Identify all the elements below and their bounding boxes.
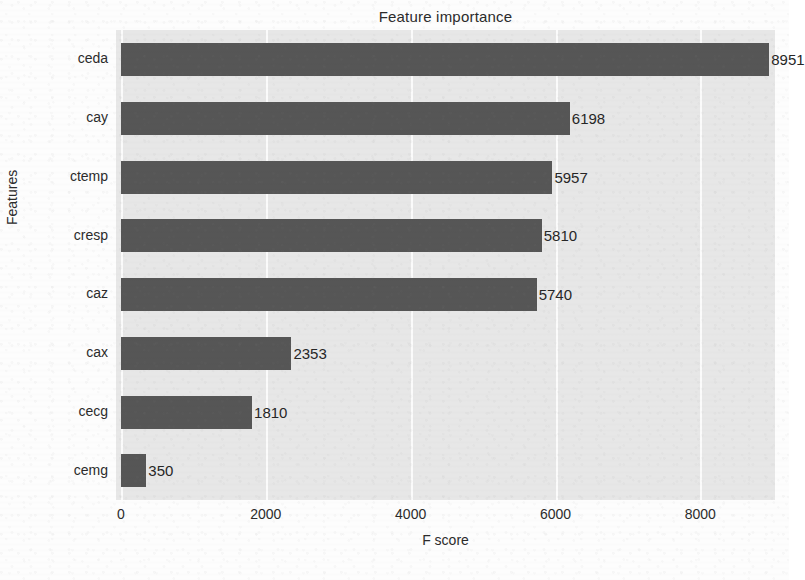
bar-track: 5957 — [116, 148, 775, 207]
y-axis-label: Features — [4, 170, 20, 225]
bar-value-label: 8951 — [769, 43, 804, 76]
x-tick-4000: 4000 — [395, 506, 426, 522]
bar-value-label: 350 — [146, 454, 173, 487]
bar-value-label: 5810 — [542, 219, 577, 252]
chart-title: Feature importance — [116, 8, 775, 25]
bar-cecg[interactable] — [121, 396, 252, 429]
bar-track: 6198 — [116, 89, 775, 148]
x-tick-8000: 8000 — [685, 506, 716, 522]
bar-value-label: 6198 — [570, 102, 605, 135]
bar-cax[interactable] — [121, 337, 291, 370]
bar-caz[interactable] — [121, 278, 537, 311]
bar-track: 1810 — [116, 383, 775, 442]
bar-cresp[interactable] — [121, 219, 542, 252]
bar-track: 8951 — [116, 30, 775, 89]
y-axis-tick-labels: cedacayctempcrespcazcaxcecgcemg — [0, 30, 108, 500]
bar-track: 5810 — [116, 206, 775, 265]
bar-value-label: 2353 — [291, 337, 326, 370]
y-tick-cecg: cecg — [0, 403, 108, 419]
x-tick-0: 0 — [117, 506, 125, 522]
y-tick-cemg: cemg — [0, 462, 108, 478]
x-tick-6000: 6000 — [540, 506, 571, 522]
bar-track: 2353 — [116, 324, 775, 383]
x-axis-label: F score — [116, 532, 775, 548]
y-tick-caz: caz — [0, 285, 108, 301]
bar-value-label: 1810 — [252, 396, 287, 429]
bar-track: 5740 — [116, 265, 775, 324]
bar-cemg[interactable] — [121, 454, 146, 487]
x-tick-2000: 2000 — [250, 506, 281, 522]
bar-track: 350 — [116, 441, 775, 500]
bar-ctemp[interactable] — [121, 161, 552, 194]
y-tick-cax: cax — [0, 344, 108, 360]
y-tick-cresp: cresp — [0, 227, 108, 243]
bar-ceda[interactable] — [121, 43, 769, 76]
bar-cay[interactable] — [121, 102, 570, 135]
y-tick-ceda: ceda — [0, 50, 108, 66]
y-tick-cay: cay — [0, 109, 108, 125]
bar-value-label: 5740 — [537, 278, 572, 311]
plot-area: 8951619859575810574023531810350 — [116, 30, 775, 500]
bar-value-label: 5957 — [552, 161, 587, 194]
